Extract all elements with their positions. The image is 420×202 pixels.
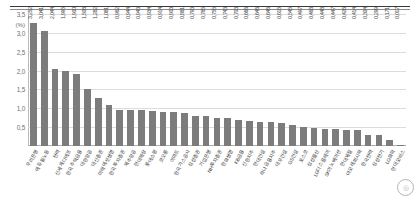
bar[interactable] [268,122,275,146]
bar-item[interactable]: 0,615 [276,14,287,146]
bar-item[interactable]: 1,900 [71,14,82,146]
bar-value-label: 1,900 [71,7,77,19]
bar[interactable] [397,145,404,146]
bar-value-label: 0,426 [341,7,347,19]
bar-item[interactable]: 0,646 [255,14,266,146]
bar-item[interactable]: 0,646 [266,14,277,146]
bar[interactable] [332,129,339,146]
y-axis-tick-label: 2,0 [17,67,25,74]
bar-item[interactable]: 0,793 [190,14,201,146]
x-category-cell: 현대해상 [136,147,147,195]
bar-item[interactable]: 0,468 [309,14,320,146]
x-axis-tick-label: 코오롱 [156,148,169,164]
bar-item[interactable]: 0,903 [168,14,179,146]
top-rule-secondary [10,9,410,10]
bar[interactable] [311,128,318,146]
x-category-cell: 한화생명 [222,147,233,195]
bar-item[interactable]: 0,666 [244,14,255,146]
bar-item[interactable]: 0,497 [298,14,309,146]
bar-value-label: 0,666 [243,7,249,19]
bar-item[interactable]: 0,881 [179,14,190,146]
bar[interactable] [354,130,361,146]
bar-value-label: 1,282 [92,7,98,19]
x-category-cell: 에듀윌노동 [39,147,50,195]
bar-item[interactable]: 2,044 [50,14,61,146]
bar[interactable] [289,125,296,146]
bar[interactable] [343,130,350,146]
y-axis-tick-label: 3,0 [17,29,25,36]
bar[interactable] [214,118,221,146]
bar[interactable] [73,74,80,146]
bar-value-label: 0,304 [362,7,368,19]
bar-item[interactable]: 1,282 [93,14,104,146]
bar[interactable] [30,23,37,146]
bar-value-label: 1,995 [60,7,66,19]
bar[interactable] [160,112,167,146]
bar-item[interactable]: 0,914 [158,14,169,146]
bar[interactable] [278,123,285,146]
bar[interactable] [365,135,372,146]
bar-item[interactable]: 0,017 [395,14,406,146]
bar-value-label: 0,299 [373,7,379,19]
bar[interactable] [170,112,177,146]
y-axis-tick-label: 3,5 [17,11,25,18]
bar-item[interactable]: 0,545 [287,14,298,146]
bar-item[interactable]: 0,447 [330,14,341,146]
bar-item[interactable]: 0,414 [352,14,363,146]
x-category-cell: 대우건설 [276,147,287,195]
bar[interactable] [95,98,102,146]
x-category-cell: 삼성증권 [190,147,201,195]
bar[interactable] [52,69,59,146]
bar[interactable] [203,116,210,146]
bar[interactable] [41,31,48,146]
bar-item[interactable]: 0,785 [201,14,212,146]
bar[interactable] [106,105,113,146]
bar-value-label: 2,044 [49,7,55,19]
bar[interactable] [386,140,393,146]
bar-item[interactable]: 0,299 [374,14,385,146]
bar[interactable] [235,120,242,147]
bar-value-label: 0,962 [114,7,120,19]
plot-area: 0,51,01,52,02,53,03,5 (%) 3,2523,0412,04… [28,14,406,146]
x-category-cell: 한국전력 [363,147,374,195]
bar-value-label: 1,081 [103,7,109,19]
bar-value-label: 0,468 [308,7,314,19]
bar-item[interactable]: 0,304 [363,14,374,146]
bar[interactable] [149,111,156,146]
bar[interactable] [116,110,123,146]
bar-item[interactable]: 0,743 [222,14,233,146]
bar-item[interactable]: 3,252 [28,14,39,146]
bar-item[interactable]: 1,081 [104,14,115,146]
bar-item[interactable]: 0,943 [136,14,147,146]
bar-item[interactable]: 0,448 [320,14,331,146]
bar[interactable] [181,113,188,146]
bar-value-label: 3,041 [38,7,44,19]
bar-item[interactable]: 0,755 [212,14,223,146]
bar-item[interactable]: 1,995 [60,14,71,146]
bar[interactable] [192,116,199,146]
bar[interactable] [246,121,253,146]
bar[interactable] [322,129,329,146]
bar-value-label: 0,914 [157,7,163,19]
bar-item[interactable]: 0,944 [125,14,136,146]
bar-item[interactable]: 1,508 [82,14,93,146]
bar[interactable] [376,135,383,146]
bar-item[interactable]: 0,426 [341,14,352,146]
bar-item[interactable]: 0,962 [114,14,125,146]
bar-item[interactable]: 0,171 [384,14,395,146]
x-category-cell: 한국가스공사 [179,147,190,195]
bar[interactable] [300,127,307,146]
bar[interactable] [224,118,231,146]
bar[interactable] [257,122,264,146]
bar-item[interactable]: 3,041 [39,14,50,146]
bar-item[interactable]: 0,934 [147,14,158,146]
bar[interactable] [62,71,69,146]
bar-item[interactable]: 0,703 [233,14,244,146]
bar-value-label: 0,414 [351,7,357,19]
x-category-cell: 포스코 [298,147,309,195]
bar[interactable] [127,110,134,146]
y-axis-tick-label: 1,5 [17,86,25,93]
bar[interactable] [84,89,91,146]
bar[interactable] [138,110,145,146]
x-category-cell: KB금융 [233,147,244,195]
